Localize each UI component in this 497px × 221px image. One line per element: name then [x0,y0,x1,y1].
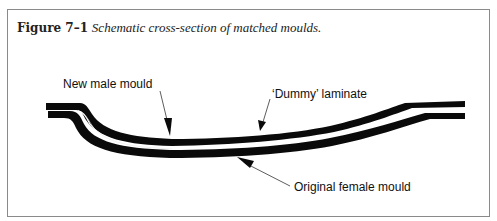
male-mould-label: New male mould [63,77,152,91]
female-mould-leader-line [245,163,290,186]
dummy-laminate-label: ‘Dummy’ laminate [272,87,367,101]
mould-cross-section-diagram [0,0,497,221]
dummy-laminate-leader-line [263,99,270,122]
female-mould-label: Original female mould [294,180,411,194]
dummy-laminate-arrowhead-icon [258,120,266,131]
male-mould-arrowhead-icon [164,118,172,136]
